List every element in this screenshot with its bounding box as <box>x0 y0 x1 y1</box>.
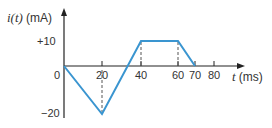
x-tick-label-40: 40 <box>135 70 147 81</box>
y-axis-arrow-icon <box>61 8 67 16</box>
x-axis-variable: t <box>232 69 236 84</box>
x-tick-label-60: 60 <box>172 70 184 81</box>
x-axis-arrow-icon <box>237 63 245 69</box>
x-axis-label: t (ms) <box>232 70 263 83</box>
x-axis-unit: (ms) <box>239 70 263 84</box>
y-tick-label-neg20: −20 <box>41 108 60 119</box>
y-axis-variable: i(t) <box>7 10 23 25</box>
y-tick-label-pos10: +10 <box>37 36 56 47</box>
y-axis-label: i(t) (mA) <box>7 11 52 24</box>
x-tick-label-80: 80 <box>208 70 220 81</box>
y-tick-label-zero: 0 <box>54 70 60 81</box>
x-tick-label-70: 70 <box>189 70 201 81</box>
x-ticks <box>102 61 214 66</box>
x-tick-label-20: 20 <box>96 70 108 81</box>
y-axis-unit: (mA) <box>26 11 52 25</box>
